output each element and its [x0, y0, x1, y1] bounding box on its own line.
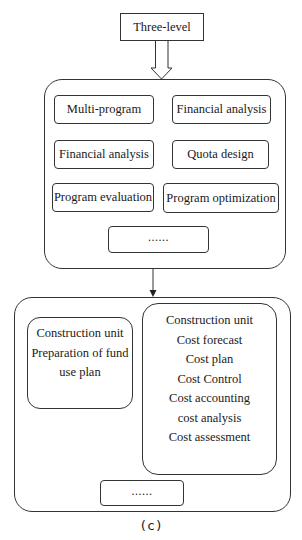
arrow-head-icon: [150, 290, 157, 297]
ellipsis-label: ......: [148, 230, 169, 245]
hollow-arrow-icon: [151, 40, 172, 79]
line-text: Construction unit: [166, 311, 253, 331]
ellipsis-label: ......: [132, 484, 153, 499]
node-label: Program optimization: [166, 191, 275, 206]
node-ellipsis-level-one: ......: [108, 226, 209, 253]
line-text: Construction unit: [36, 324, 123, 344]
node-label: Multi-program: [67, 102, 141, 117]
line-text: Cost Control: [177, 370, 241, 390]
node-program-optimization: Program optimization: [163, 183, 279, 213]
line-text: Cost plan: [186, 350, 234, 370]
node-program-evaluation: Program evaluation: [52, 183, 154, 212]
node-label: Financial analysis: [59, 147, 149, 162]
node-label: Program evaluation: [54, 190, 152, 205]
node-cost-management: Construction unit Cost forecast Cost pla…: [142, 303, 277, 475]
node-quota-design: Quota design: [172, 140, 269, 169]
line-text: use plan: [59, 363, 100, 383]
line-text: Preparation of fund: [31, 344, 128, 364]
line-text: Cost forecast: [177, 331, 243, 351]
node-ellipsis-level-two: ......: [100, 480, 184, 506]
node-label: Quota design: [187, 147, 253, 162]
node-financial-analysis-2: Financial analysis: [54, 140, 154, 169]
node-financial-analysis-1: Financial analysis: [172, 95, 271, 124]
line-text: cost analysis: [178, 409, 242, 429]
node-multi-program: Multi-program: [54, 95, 154, 124]
node-fund-use-plan: Construction unit Preparation of fund us…: [27, 317, 133, 409]
figure-caption: (c): [0, 518, 302, 533]
top-node-three-level: Three-level: [120, 13, 204, 41]
line-text: Cost assessment: [169, 428, 251, 448]
node-label: Financial analysis: [177, 102, 267, 117]
line-text: Cost accounting: [169, 389, 250, 409]
top-node-label: Three-level: [133, 20, 191, 35]
